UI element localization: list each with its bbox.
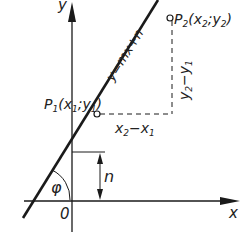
arrow-down-icon: [97, 189, 103, 200]
line-equation-label: y=mx+n: [102, 26, 146, 84]
line-equation-diagram: y x 0 φ n y=mx+n P1(x1;y1) P2(x2;y2) x2−…: [0, 0, 250, 240]
y-axis-label: y: [57, 0, 68, 14]
dy-label: y2−y1: [176, 60, 194, 101]
y-axis: [68, 2, 76, 232]
p1-label: P1(x1;y1): [44, 96, 102, 114]
x-axis-label: x: [228, 204, 238, 222]
arrow-up-icon: [97, 153, 103, 164]
intercept-marker: [72, 152, 105, 200]
y-axis-arrow-icon: [68, 2, 76, 22]
angle-label: φ: [51, 178, 62, 197]
x-axis: [24, 197, 240, 205]
origin-label: 0: [60, 205, 70, 223]
dx-label: x2−x1: [114, 120, 155, 138]
p2-label: P2(x2;y2): [174, 11, 232, 29]
point-p2: [167, 15, 173, 21]
intercept-label: n: [104, 167, 114, 186]
